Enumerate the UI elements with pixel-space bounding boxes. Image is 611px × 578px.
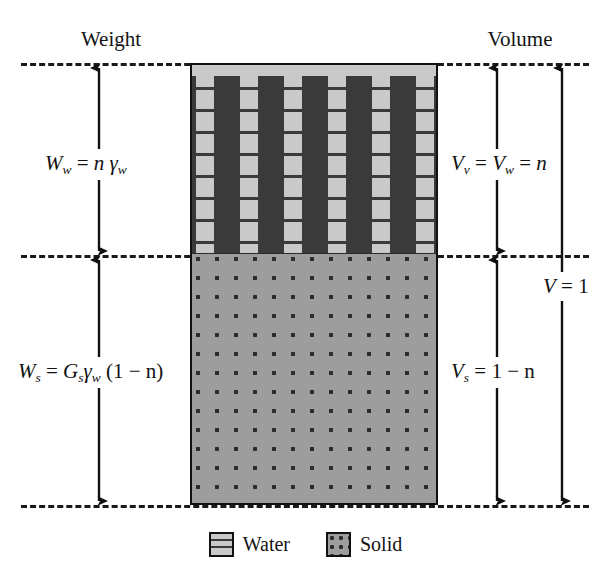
water-phase-region <box>192 65 436 253</box>
legend-label-water: Water <box>243 533 290 556</box>
legend-label-solid: Solid <box>360 533 402 556</box>
water-swatch-icon <box>209 532 234 557</box>
label-volume-total: V = 1 <box>538 272 594 301</box>
label-weight-solid: Ws = Gsγw (1 − n) <box>13 357 168 388</box>
soil-phase-diagram: Weight Volume <box>0 0 611 578</box>
legend-item-solid: Solid <box>326 532 402 557</box>
bottom-reference-dashed-line <box>21 505 589 508</box>
weight-column-header: Weight <box>52 27 170 52</box>
label-volume-voids: Vv = Vw = n <box>446 149 552 180</box>
soil-element-block <box>190 63 438 505</box>
legend: Water Solid <box>0 532 611 557</box>
label-volume-solid: Vs = 1 − n <box>446 357 540 388</box>
volume-column-header: Volume <box>460 27 580 52</box>
solid-phase-region <box>192 253 436 503</box>
label-weight-water: Ww = n γw <box>40 149 132 180</box>
legend-item-water: Water <box>209 532 290 557</box>
phase-divider-line <box>192 253 436 254</box>
solid-swatch-icon <box>326 532 351 557</box>
